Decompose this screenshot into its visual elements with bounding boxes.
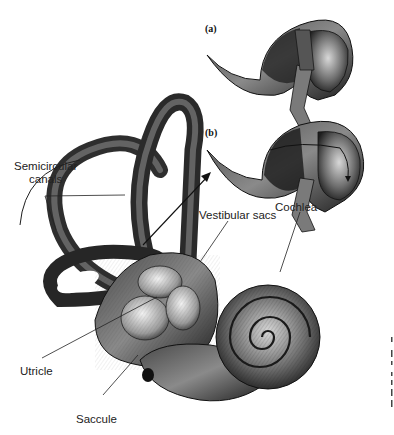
inner-ear-illustration bbox=[0, 0, 394, 435]
label-utricle: Utricle bbox=[20, 365, 53, 378]
scale-bar bbox=[391, 337, 393, 407]
label-saccule: Saccule bbox=[76, 413, 117, 426]
panel-a-drawing bbox=[207, 20, 353, 128]
label-semicircular-canals: Semicircular canals bbox=[14, 160, 77, 186]
panel-a-label: (a) bbox=[205, 23, 217, 34]
label-semicircular-line1: Semicircular bbox=[14, 160, 77, 173]
label-cochlea: Cochlea bbox=[275, 201, 317, 214]
label-semicircular-line2: canals bbox=[14, 173, 77, 186]
label-vestibular-sacs: Vestibular sacs bbox=[199, 209, 276, 222]
panel-b-label: (b) bbox=[205, 127, 217, 138]
